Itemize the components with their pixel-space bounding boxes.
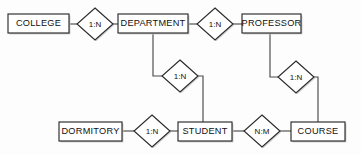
relationship-dormitory-student[interactable]: 1:N bbox=[134, 115, 171, 148]
connector-rel3-down-student bbox=[198, 76, 203, 122]
relationship-professor-course[interactable]: 1:N bbox=[278, 61, 315, 94]
relationship-cardinality-label: 1:N bbox=[290, 73, 303, 82]
connector-professor-down-rel4 bbox=[270, 33, 278, 77]
er-diagram-canvas: 1:N1:N1:N1:N1:NN:M COLLEGEDEPARTMENTPROF… bbox=[0, 0, 361, 155]
entity-name-label: STUDENT bbox=[182, 126, 227, 136]
connector-department-down-rel3 bbox=[153, 33, 162, 76]
connector-rel4-down-course bbox=[314, 77, 318, 122]
entity-department[interactable]: DEPARTMENT bbox=[118, 14, 189, 34]
relationship-student-course[interactable]: N:M bbox=[244, 115, 281, 148]
entity-name-label: COLLEGE bbox=[16, 18, 61, 28]
relationship-department-student[interactable]: 1:N bbox=[162, 60, 199, 93]
relationship-cardinality-label: 1:N bbox=[174, 72, 187, 81]
relationship-cardinality-label: 1:N bbox=[209, 20, 222, 29]
er-diagram-svg: 1:N1:N1:N1:N1:NN:M COLLEGEDEPARTMENTPROF… bbox=[0, 0, 361, 155]
entity-college[interactable]: COLLEGE bbox=[8, 14, 70, 34]
entity-name-label: PROFESSOR bbox=[242, 18, 302, 28]
entity-professor[interactable]: PROFESSOR bbox=[242, 14, 303, 34]
relationship-cardinality-label: 1:N bbox=[89, 20, 102, 29]
entity-name-label: DORMITORY bbox=[61, 126, 119, 136]
entity-name-label: DEPARTMENT bbox=[121, 18, 186, 28]
relationship-cardinality-label: 1:N bbox=[146, 127, 159, 136]
entity-name-label: COURSE bbox=[298, 126, 339, 136]
relationship-college-department[interactable]: 1:N bbox=[77, 8, 114, 41]
relationship-cardinality-label: N:M bbox=[255, 127, 270, 136]
entity-course[interactable]: COURSE bbox=[291, 122, 346, 142]
entity-dormitory[interactable]: DORMITORY bbox=[59, 122, 123, 142]
entity-student[interactable]: STUDENT bbox=[178, 122, 233, 142]
relationship-department-professor[interactable]: 1:N bbox=[197, 8, 234, 41]
